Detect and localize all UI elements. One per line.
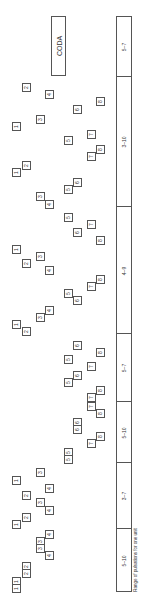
pitch-box: 8 — [96, 275, 105, 284]
coda-box: CODA — [51, 16, 66, 76]
pitch-box: 2 — [22, 327, 31, 336]
range-label: 3–10 — [121, 136, 127, 147]
pitch-number: 4 — [46, 485, 53, 492]
pitch-number: 8 — [97, 98, 104, 105]
pitch-number: 3 — [37, 469, 44, 476]
pitch-box: 7 — [87, 393, 96, 402]
range-segment: 5–10 — [117, 401, 131, 463]
pitch-number: 7 — [88, 394, 95, 401]
pitch-number: 7 — [88, 221, 95, 228]
pitch-box: 8 — [96, 145, 105, 154]
pitch-box: 5 — [64, 185, 73, 194]
pitch-box: 7 — [87, 220, 96, 229]
coda-label: CODA — [55, 36, 62, 56]
pitch-number: 8 — [97, 146, 104, 153]
pitch-number: 2 — [23, 492, 30, 499]
pitch-number: 5 — [65, 290, 72, 297]
pitch-box: 4 — [45, 530, 54, 539]
pitch-number: 3 — [37, 499, 44, 506]
range-caption: Range of pulsations for one unit — [131, 530, 139, 590]
pitch-box: 4 — [45, 306, 54, 315]
pitch-box: 3 — [36, 192, 45, 201]
pitch-number: 4 — [46, 201, 53, 208]
pitch-box: 2 — [22, 513, 31, 522]
pitch-box: 7 — [87, 362, 96, 371]
pitch-box: 8 — [96, 236, 105, 245]
pitch-box: 4 — [45, 506, 54, 515]
pitch-box: 3 — [36, 252, 45, 261]
pitch-box: 6 — [73, 228, 82, 237]
pitch-box: 5 — [64, 289, 73, 298]
pitch-box: 3 — [36, 544, 45, 553]
range-segment: 5–7 — [117, 17, 131, 76]
pitch-number: 4 — [46, 267, 53, 274]
pitch-box: 6 — [73, 105, 82, 114]
pitch-number: 5 — [65, 456, 72, 463]
pitch-number: 3 — [37, 314, 44, 321]
pitch-box: 5 — [64, 213, 73, 222]
pitch-number: 6 — [74, 426, 81, 433]
pitch-box: 5 — [64, 355, 73, 364]
pitch-number: 7 — [88, 283, 95, 290]
pitch-box: 6 — [73, 341, 82, 350]
pitch-number: 7 — [88, 153, 95, 160]
pitch-box: 8 — [96, 432, 105, 441]
pitch-number: 6 — [74, 179, 81, 186]
pitch-box: 4 — [45, 90, 54, 99]
pitch-number: 4 — [46, 307, 53, 314]
pitch-number: 4 — [46, 91, 53, 98]
range-bar: 5–73–104–95–75–103–75–10 — [116, 16, 132, 592]
pitch-box: 6 — [73, 425, 82, 434]
range-segment: 3–7 — [117, 462, 131, 529]
pitch-box: 3 — [36, 468, 45, 477]
pitch-box: 3 — [36, 115, 45, 124]
range-segment: 5–7 — [117, 333, 131, 402]
pitch-box: 6 — [73, 371, 82, 380]
pitch-number: 3 — [37, 253, 44, 260]
pitch-box: 8 — [96, 348, 105, 357]
pitch-number: 1 — [13, 477, 20, 484]
pitch-number: 5 — [65, 379, 72, 386]
range-label: 5–10 — [121, 427, 127, 438]
pitch-number: 2 — [23, 514, 30, 521]
pitch-box: 2 — [22, 161, 31, 170]
pitch-box: 8 — [96, 409, 105, 418]
pitch-number: 7 — [88, 440, 95, 447]
range-segment: 5–10 — [117, 528, 131, 592]
range-label: 5–7 — [121, 364, 127, 372]
pitch-number: 7 — [88, 131, 95, 138]
range-label: 3–7 — [121, 492, 127, 500]
range-label: 5–7 — [121, 42, 127, 50]
pitch-box: 2 — [22, 491, 31, 500]
pitch-number: 6 — [74, 372, 81, 379]
pitch-number: 3 — [37, 545, 44, 552]
pitch-number: 6 — [74, 297, 81, 304]
range-label: 5–10 — [121, 555, 127, 566]
pitch-box: 4 — [45, 200, 54, 209]
range-segment: 3–10 — [117, 76, 131, 207]
pitch-number: 2 — [23, 260, 30, 267]
pitch-number: 8 — [97, 237, 104, 244]
range-segment: 4–9 — [117, 206, 131, 334]
pitch-box: 5 — [64, 136, 73, 145]
pitch-box: 5 — [64, 455, 73, 464]
pitch-box: 1 — [12, 245, 21, 254]
pitch-number: 1 — [13, 321, 20, 328]
pitch-number: 6 — [74, 229, 81, 236]
pitch-box: 2 — [22, 569, 31, 578]
pitch-box: 7 — [87, 152, 96, 161]
pitch-box: 1 — [12, 476, 21, 485]
pitch-number: 7 — [88, 403, 95, 410]
pitch-number: 2 — [23, 570, 30, 577]
pitch-number: 2 — [23, 162, 30, 169]
pitch-box: 7 — [87, 282, 96, 291]
pitch-number: 2 — [23, 84, 30, 91]
pitch-box: 1 — [12, 168, 21, 177]
pitch-box: 3 — [36, 498, 45, 507]
pitch-box: 5 — [64, 378, 73, 387]
pitch-number: 7 — [88, 363, 95, 370]
pitch-box: 4 — [45, 551, 54, 560]
pitch-number: 1 — [13, 585, 20, 592]
pitch-box: 7 — [87, 402, 96, 411]
pitch-box: 3 — [36, 313, 45, 322]
